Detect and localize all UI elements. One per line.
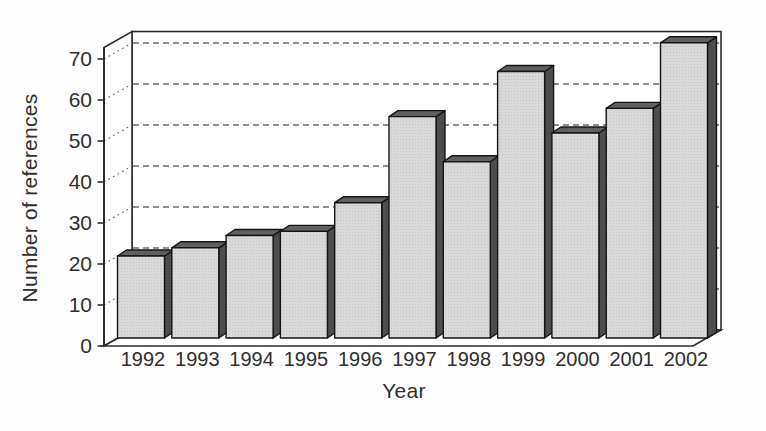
x-axis-title: Year <box>382 379 426 403</box>
y-tick-label-40: 40 <box>69 170 92 193</box>
y-tick-label-70: 70 <box>69 47 92 70</box>
bar-top-1997 <box>389 111 445 117</box>
bar-1995 <box>280 225 336 338</box>
bar-2002 <box>661 37 717 338</box>
x-tick-label-1996: 1996 <box>338 348 383 370</box>
x-tick-label-1995: 1995 <box>284 348 329 370</box>
bar-2001 <box>606 102 662 338</box>
bar-front-1992 <box>118 256 165 338</box>
bar-top-2002 <box>661 37 717 43</box>
bar-top-1992 <box>118 250 174 256</box>
bar-front-1998 <box>443 162 490 338</box>
bar-1998 <box>443 156 499 338</box>
bar-top-2001 <box>606 102 662 108</box>
bar-front-2002 <box>661 43 708 338</box>
bar-1993 <box>172 242 228 338</box>
x-tick-label-1998: 1998 <box>447 348 492 370</box>
bar-front-1994 <box>226 236 273 339</box>
bar-2000 <box>552 127 608 338</box>
bar-top-1999 <box>498 66 554 72</box>
y-tick-label-0: 0 <box>80 334 92 357</box>
x-tick-label-2000: 2000 <box>555 348 600 370</box>
bar-chart-canvas: 0102030405060701992199319941995199619971… <box>0 0 766 431</box>
y-tick-label-50: 50 <box>69 129 92 152</box>
bar-front-1996 <box>335 203 382 338</box>
x-tick-label-1993: 1993 <box>175 348 220 370</box>
bar-top-1995 <box>280 225 336 231</box>
bar-1992 <box>118 250 174 338</box>
bar-1994 <box>226 230 282 339</box>
bar-top-2000 <box>552 127 608 133</box>
bar-front-1999 <box>498 72 545 339</box>
bar-1999 <box>498 66 554 339</box>
bar-1996 <box>335 197 391 338</box>
y-tick-label-30: 30 <box>69 211 92 234</box>
bar-front-2000 <box>552 133 599 338</box>
bar-front-2001 <box>606 108 653 338</box>
y-tick-label-20: 20 <box>69 252 92 275</box>
x-tick-label-1994: 1994 <box>229 348 274 370</box>
bar-top-1998 <box>443 156 499 162</box>
bar-side-2002 <box>708 37 717 338</box>
bar-top-1993 <box>172 242 228 248</box>
bar-front-1997 <box>389 117 436 338</box>
bar-front-1993 <box>172 248 219 338</box>
x-tick-label-1999: 1999 <box>501 348 546 370</box>
bar-top-1996 <box>335 197 391 203</box>
bar-1997 <box>389 111 445 338</box>
x-tick-label-2002: 2002 <box>664 348 709 370</box>
references-by-year-figure: 0102030405060701992199319941995199619971… <box>0 0 766 431</box>
y-tick-label-60: 60 <box>69 88 92 111</box>
x-tick-label-1992: 1992 <box>121 348 166 370</box>
y-tick-label-10: 10 <box>69 293 92 316</box>
x-tick-label-2001: 2001 <box>609 348 654 370</box>
y-axis-title: Number of references <box>18 93 42 302</box>
bar-top-1994 <box>226 230 282 236</box>
x-tick-label-1997: 1997 <box>392 348 437 370</box>
bar-front-1995 <box>280 231 327 338</box>
